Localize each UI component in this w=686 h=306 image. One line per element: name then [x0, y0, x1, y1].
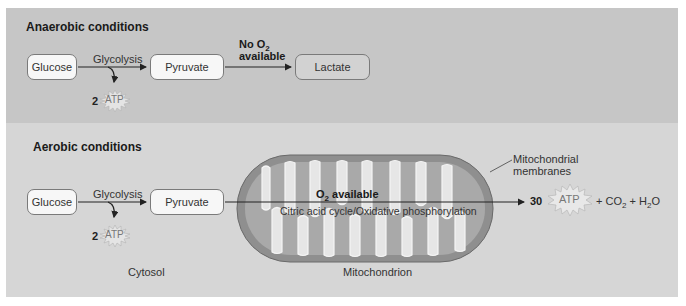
products-label: + CO2 + H2O — [596, 195, 660, 207]
atp-burst-large-icon — [0, 0, 686, 306]
cytosol-label: Cytosol — [128, 266, 165, 278]
mitochondrion-label: Mitochondrion — [343, 266, 412, 278]
atp-label-final: ATP — [559, 193, 580, 205]
